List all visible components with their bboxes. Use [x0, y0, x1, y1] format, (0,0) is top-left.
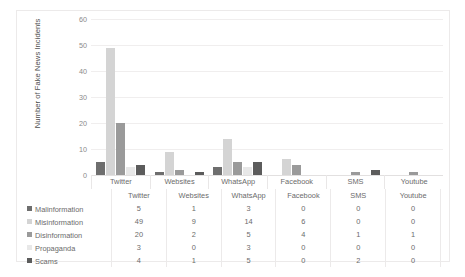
bar	[282, 159, 291, 175]
bar-group	[384, 11, 443, 175]
table-cell: 3	[112, 241, 167, 254]
table-header-row: TwitterWebsitesWhatsAppFacebookSMSYoutub…	[25, 189, 441, 202]
table-column-header: WhatsApp	[221, 189, 276, 202]
x-category-label: Twitter	[91, 175, 150, 189]
bar	[136, 165, 145, 175]
table-cell: 49	[112, 215, 167, 228]
legend-swatch-icon	[27, 219, 32, 224]
table-row: Scams415020	[25, 254, 441, 267]
plot-grid-area	[91, 11, 443, 186]
legend-entry: Propaganda	[25, 241, 112, 254]
x-category-label: SMS	[326, 175, 385, 189]
table-cell: 4	[112, 254, 167, 267]
table-cell: 2	[166, 228, 221, 241]
legend-entry: Malinformation	[25, 202, 112, 215]
table-cell: 0	[386, 215, 441, 228]
y-tick-label: 60	[61, 15, 87, 24]
bar-group	[208, 11, 267, 175]
bar	[243, 167, 252, 175]
table-cell: 0	[331, 241, 386, 254]
bar	[126, 167, 135, 175]
bar	[233, 162, 242, 175]
data-table: TwitterWebsitesWhatsAppFacebookSMSYoutub…	[25, 189, 441, 255]
table-cell: 20	[112, 228, 167, 241]
table-column-header: Websites	[166, 189, 221, 202]
y-axis-tick-labels: 6050403020100	[61, 11, 87, 186]
legend-entry: Misinformation	[25, 215, 112, 228]
y-axis-title: Number of Fake News Incidents	[33, 0, 42, 149]
table-cell: 0	[386, 241, 441, 254]
bar	[116, 123, 125, 175]
table-cell: 1	[166, 202, 221, 215]
table-column-header: Youtube	[386, 189, 441, 202]
table-cell: 1	[331, 228, 386, 241]
bar-group	[267, 11, 326, 175]
table-cell: 4	[276, 228, 331, 241]
y-tick-label: 20	[61, 119, 87, 128]
bar	[165, 152, 174, 175]
bar	[213, 167, 222, 175]
bar-series-layer	[91, 11, 443, 175]
legend-label: Malinformation	[35, 204, 83, 213]
table-cell: 1	[166, 254, 221, 267]
x-axis-category-labels: TwitterWebsitesWhatsAppFacebookSMSYoutub…	[91, 175, 443, 189]
x-category-label: WhatsApp	[208, 175, 267, 189]
legend-entry: Disinformation	[25, 228, 112, 241]
table-cell: 5	[221, 228, 276, 241]
bar-group	[91, 11, 150, 175]
table-cell: 0	[276, 254, 331, 267]
table-cell: 0	[386, 202, 441, 215]
legend-swatch-icon	[27, 258, 32, 263]
table-cell: 0	[276, 202, 331, 215]
y-tick-label: 0	[61, 171, 87, 180]
bar-group	[150, 11, 209, 175]
table-corner-cell	[25, 189, 112, 202]
table-cell: 3	[221, 202, 276, 215]
table-cell: 1	[386, 228, 441, 241]
table-cell: 2	[331, 254, 386, 267]
y-tick-label: 10	[61, 145, 87, 154]
table-cell: 0	[276, 241, 331, 254]
table-cell: 5	[112, 202, 167, 215]
bar	[106, 48, 115, 175]
legend-swatch-icon	[27, 245, 32, 250]
y-tick-label: 50	[61, 41, 87, 50]
legend-label: Disinformation	[35, 230, 82, 239]
bar	[292, 165, 301, 175]
data-table-grid: TwitterWebsitesWhatsAppFacebookSMSYoutub…	[25, 189, 441, 267]
legend-entry: Scams	[25, 254, 112, 267]
table-cell: 0	[166, 241, 221, 254]
table-row: Disinformation2025411	[25, 228, 441, 241]
table-cell: 14	[221, 215, 276, 228]
plot-region: Number of Fake News Incidents 6050403020…	[17, 11, 451, 186]
legend-label: Propaganda	[35, 243, 75, 252]
table-cell: 3	[221, 241, 276, 254]
x-category-label: Youtube	[384, 175, 443, 189]
table-row: Misinformation49914600	[25, 215, 441, 228]
table-row: Propaganda303000	[25, 241, 441, 254]
legend-swatch-icon	[27, 206, 32, 211]
x-category-label: Facebook	[267, 175, 326, 189]
bar	[253, 162, 262, 175]
bar	[96, 162, 105, 175]
table-column-header: Twitter	[112, 189, 167, 202]
legend-label: Misinformation	[35, 217, 83, 226]
chart-frame: Number of Fake News Incidents 6050403020…	[16, 10, 450, 262]
table-cell: 0	[331, 215, 386, 228]
x-category-label: Websites	[150, 175, 209, 189]
legend-swatch-icon	[27, 232, 32, 237]
table-column-header: SMS	[331, 189, 386, 202]
bar-group	[326, 11, 385, 175]
table-cell: 0	[386, 254, 441, 267]
table-column-header: Facebook	[276, 189, 331, 202]
table-row: Malinformation513000	[25, 202, 441, 215]
table-cell: 5	[221, 254, 276, 267]
table-cell: 6	[276, 215, 331, 228]
bar	[223, 139, 232, 175]
legend-label: Scams	[35, 256, 58, 265]
table-cell: 0	[331, 202, 386, 215]
y-tick-label: 40	[61, 67, 87, 76]
table-cell: 9	[166, 215, 221, 228]
y-tick-label: 30	[61, 93, 87, 102]
